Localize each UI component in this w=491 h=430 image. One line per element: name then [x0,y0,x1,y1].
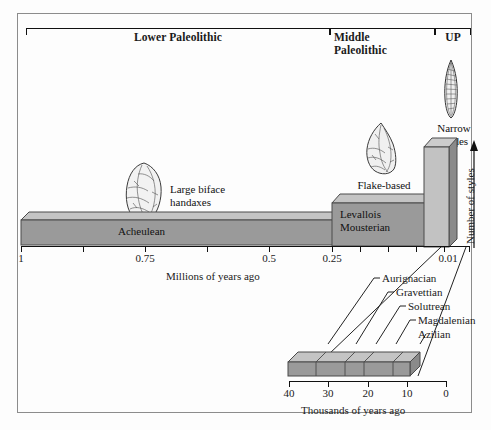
caption-line1: Flake-based [342,179,426,192]
bracket-upper-paleolithic [435,28,471,29]
bracket-tick-left [330,29,331,35]
bracket-lower-paleolithic [26,28,330,29]
inset-label-30: 30 [308,387,348,399]
period-label-upper-paleolithic: UP [435,31,471,44]
inset-axis-title: Thousands of years ago [301,404,405,416]
inset-label-40: 40 [269,387,309,399]
inset-bar-cultures[interactable] [288,352,420,382]
bar-acheulean[interactable] [21,212,335,246]
inset-label-10: 10 [387,387,427,399]
caption-line1: Large biface [170,183,225,196]
period-label-middle-paleolithic: Middle Paleolithic [334,31,430,57]
caption-large-biface-handaxes: Large biface handaxes [170,183,225,209]
caption-line2: handaxes [170,196,225,209]
inset-label-20: 20 [348,387,388,399]
figure-frame: Lower Paleolithic Middle Paleolithic UP … [17,13,472,413]
bar-narrow-blades[interactable] [424,138,457,247]
bar-label-acheulean: Acheulean [118,225,165,238]
inset-label-0: 0 [426,387,466,399]
bar-label-line2: Mousterian [340,221,390,234]
culture-label-aurignacian: Aurignacian [382,272,436,285]
period-label-line1: Middle [334,31,430,44]
figure-root: Lower Paleolithic Middle Paleolithic UP … [0,0,491,430]
narrow-blade-tool-icon [438,59,464,119]
culture-label-solutrean: Solutrean [408,300,450,313]
period-label-line2: Paleolithic [334,44,430,57]
period-label-lower-paleolithic: Lower Paleolithic [78,31,278,44]
bracket-middle-paleolithic [330,28,435,29]
culture-label-magdalenian: Magdalenian [418,314,475,327]
bar-label-levallois-mousterian: Levallois Mousterian [340,208,390,234]
caption-line1: Narrow [428,122,480,135]
bar-label-line1: Levallois [340,208,390,221]
culture-label-gravettian: Gravettian [396,286,442,299]
bracket-tick-left [26,29,27,35]
culture-label-azilian: Azilian [418,328,450,341]
number-of-styles-label: Number of styles [464,168,476,244]
inset-time-axis [289,381,447,382]
flake-tool-icon [364,122,400,176]
